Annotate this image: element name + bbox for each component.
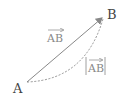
magnitude-label-text: AB	[87, 62, 104, 75]
vector-label-text: AB	[46, 32, 63, 45]
vector-label: AB	[46, 30, 63, 45]
vector-diagram: A B AB AB	[0, 0, 128, 98]
point-label-a: A	[12, 81, 23, 96]
point-label-b: B	[107, 7, 117, 22]
magnitude-label: AB	[86, 57, 105, 75]
